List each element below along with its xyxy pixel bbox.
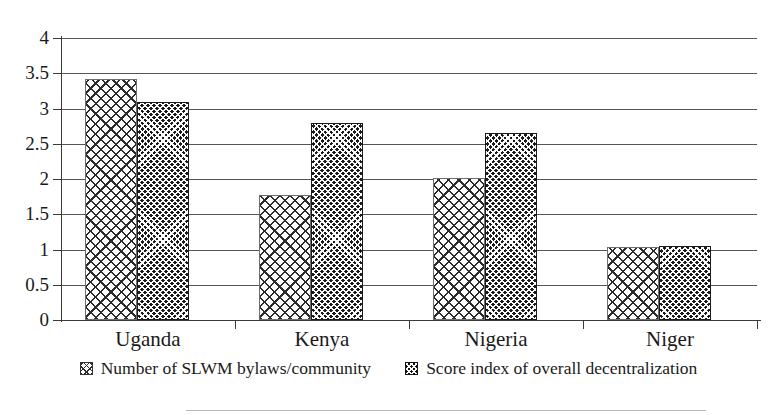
y-tick-label: 1	[40, 240, 50, 259]
x-tick-mark	[583, 320, 584, 329]
y-tick-label: 4	[40, 28, 50, 47]
y-tick-mark	[53, 73, 62, 74]
bar-uganda-series-1	[85, 79, 137, 320]
y-tick-mark	[53, 214, 62, 215]
gridline	[61, 38, 757, 39]
y-tick-mark	[53, 38, 62, 39]
bar-nigeria-series-2	[485, 133, 537, 320]
legend-label-series-2: Score index of overall decentralization	[426, 358, 697, 378]
bar-uganda-series-2	[137, 102, 189, 320]
bar-nigeria-series-1	[433, 178, 485, 320]
y-tick-label: 2.5	[25, 134, 49, 153]
bar-niger-series-1	[607, 247, 659, 320]
legend-item-series-2: Score index of overall decentralization	[405, 358, 697, 378]
y-tick-mark	[53, 109, 62, 110]
legend-item-series-1: Number of SLWM bylaws/community	[80, 358, 371, 378]
y-tick-mark	[53, 285, 62, 286]
x-tick-mark	[409, 320, 410, 329]
x-axis-category-label-niger: Niger	[583, 327, 757, 351]
y-tick-mark	[53, 179, 62, 180]
x-axis-category-label-kenya: Kenya	[235, 327, 409, 351]
y-tick-label: 0.5	[25, 275, 49, 294]
gridline	[61, 73, 757, 74]
y-tick-label: 3	[40, 99, 50, 118]
x-tick-mark	[235, 320, 236, 329]
y-tick-mark	[53, 320, 62, 321]
chart-legend: Number of SLWM bylaws/community Score in…	[0, 358, 777, 378]
x-axis-category-label-uganda: Uganda	[61, 327, 235, 351]
x-tick-mark	[757, 320, 758, 329]
legend-swatch-icon-series-1	[80, 362, 93, 375]
chart-figure: 00.511.522.533.54 UgandaKenyaNigeriaNige…	[0, 0, 777, 415]
bottom-divider	[186, 410, 706, 411]
legend-swatch-icon-series-2	[405, 362, 418, 375]
y-axis-tick-labels: 00.511.522.533.54	[0, 0, 49, 415]
bar-niger-series-2	[659, 246, 711, 320]
x-axis-category-label-nigeria: Nigeria	[409, 327, 583, 351]
y-tick-label: 3.5	[25, 63, 49, 82]
y-tick-mark	[53, 250, 62, 251]
y-tick-label: 0	[40, 310, 50, 329]
legend-label-series-1: Number of SLWM bylaws/community	[101, 358, 371, 378]
bar-kenya-series-1	[259, 195, 311, 320]
y-tick-mark	[53, 144, 62, 145]
y-tick-label: 1.5	[25, 204, 49, 223]
bar-kenya-series-2	[311, 123, 363, 320]
y-tick-label: 2	[40, 169, 50, 188]
